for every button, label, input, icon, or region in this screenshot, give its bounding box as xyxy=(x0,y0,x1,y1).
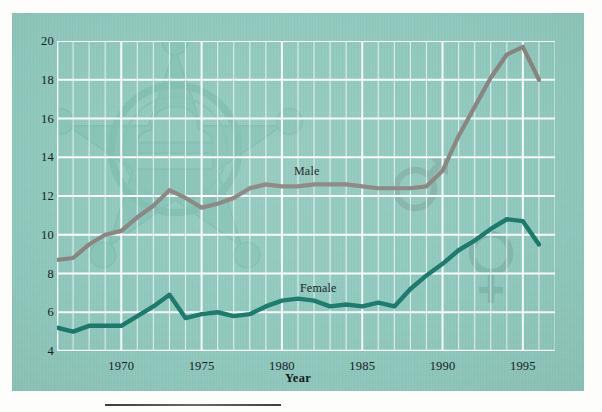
plot-area xyxy=(57,41,555,351)
x-axis-title: Year xyxy=(12,371,584,386)
chart-panel: 468101214161820 197019751980198519901995… xyxy=(12,13,584,391)
y-axis-tick-label: 18 xyxy=(28,72,54,87)
plot-svg xyxy=(57,41,555,351)
y-axis-tick-label: 14 xyxy=(28,150,54,165)
y-axis-tick-label: 12 xyxy=(28,189,54,204)
y-axis-tick-label: 10 xyxy=(28,227,54,242)
series-label-male: Male xyxy=(294,164,319,179)
y-axis-tick-label: 4 xyxy=(28,344,54,359)
y-axis-tick-label: 16 xyxy=(28,111,54,126)
y-axis-ticks: 468101214161820 xyxy=(28,41,54,351)
page-root: 468101214161820 197019751980198519901995… xyxy=(0,0,602,412)
series-label-female: Female xyxy=(300,281,337,296)
grid-major xyxy=(57,41,555,351)
y-axis-tick-label: 8 xyxy=(28,266,54,281)
bottom-divider-rule xyxy=(105,404,281,406)
male-gender-symbol-icon xyxy=(396,156,448,208)
y-axis-tick-label: 20 xyxy=(28,34,54,49)
y-axis-tick-label: 6 xyxy=(28,305,54,320)
